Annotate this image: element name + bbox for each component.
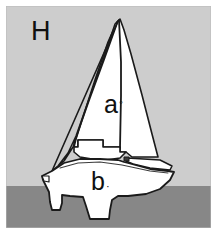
hull-area-label-text: b — [91, 167, 105, 195]
sail-area-label-mark: ◦ — [119, 95, 123, 109]
sail-area-label-text: a — [104, 90, 118, 118]
hull-area-label-mark: · — [106, 180, 110, 192]
sail-area-label: a◦ — [104, 92, 122, 117]
hull-area-label: b· — [91, 169, 109, 194]
panel-label-h: H — [31, 18, 51, 45]
sailboat-figure: H a◦ b· — [0, 0, 219, 238]
gooseneck-fitting — [124, 157, 129, 161]
